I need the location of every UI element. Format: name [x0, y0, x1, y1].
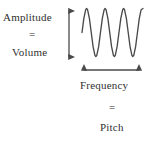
diagram-graphics	[0, 0, 150, 141]
sound-wave-diagram: Amplitude = Volume Frequency = Pitch	[0, 0, 150, 141]
sine-wave-path	[82, 9, 143, 57]
